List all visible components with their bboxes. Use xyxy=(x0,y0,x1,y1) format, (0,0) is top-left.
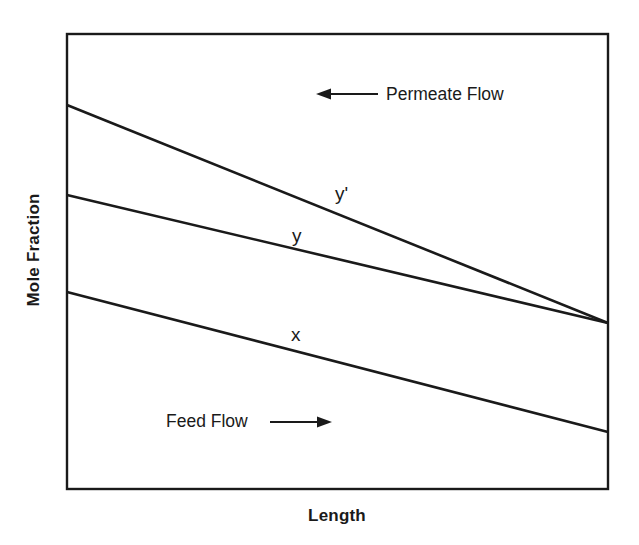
y-axis-title: Mole Fraction xyxy=(24,170,48,330)
chart-canvas xyxy=(0,0,639,545)
curve-label-y-prime: y' xyxy=(335,183,348,205)
plot-background xyxy=(67,34,608,489)
x-axis-title: Length xyxy=(257,506,417,526)
feed-flow-label: Feed Flow xyxy=(166,411,248,432)
chart-figure: Mole Fraction Length Permeate Flow Feed … xyxy=(0,0,639,545)
curve-label-y: y xyxy=(292,225,302,247)
permeate-flow-label: Permeate Flow xyxy=(386,84,504,105)
curve-label-x: x xyxy=(291,324,301,346)
